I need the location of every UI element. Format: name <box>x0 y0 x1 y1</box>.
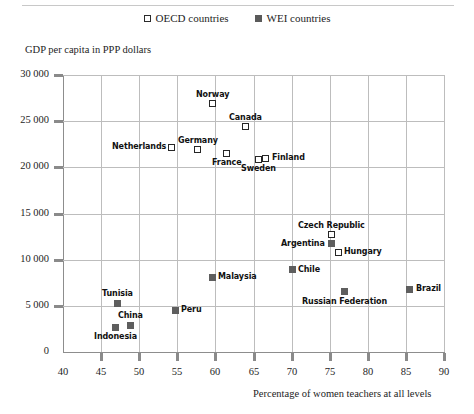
open-square-icon <box>144 15 151 22</box>
filled-square-icon <box>255 15 262 22</box>
y-axis-tick <box>54 120 63 123</box>
data-point-label: Peru <box>181 305 202 314</box>
data-point-label: Indonesia <box>94 332 137 341</box>
y-axis-tick-label: 10 000 <box>0 253 49 264</box>
data-point[interactable] <box>194 146 201 153</box>
y-axis-tick-label: 0 <box>0 345 49 356</box>
x-axis-tick-label: 45 <box>81 366 121 377</box>
header-divider <box>22 5 454 6</box>
x-axis-tick-label: 65 <box>234 366 274 377</box>
x-axis-title: Percentage of women teachers at all leve… <box>253 388 431 399</box>
gridline-vertical <box>406 75 407 352</box>
legend-item-wei: WEI countries <box>255 12 331 24</box>
x-axis-tick <box>443 353 446 361</box>
y-axis-tick-label: 15 000 <box>0 207 49 218</box>
data-point[interactable] <box>289 266 296 273</box>
y-axis-tick-label: 20 000 <box>0 160 49 171</box>
data-point-label: Netherlands <box>112 142 166 151</box>
data-point-label: Hungary <box>344 247 382 256</box>
x-axis-tick-label: 50 <box>119 366 159 377</box>
gridline-vertical <box>330 75 331 352</box>
x-axis-tick-label: 70 <box>272 366 312 377</box>
legend-label-wei: WEI countries <box>267 12 331 24</box>
x-axis-tick <box>100 353 103 361</box>
data-point[interactable] <box>168 144 175 151</box>
chart-legend: OECD countries WEI countries <box>0 12 474 24</box>
x-axis-tick <box>329 353 332 361</box>
x-axis-tick <box>253 353 256 361</box>
x-axis-tick <box>138 353 141 361</box>
data-point-label: Finland <box>272 153 305 162</box>
data-point-label: Canada <box>229 113 262 122</box>
data-point-label: Russian Federation <box>302 297 387 306</box>
data-point[interactable] <box>406 286 413 293</box>
gridline-vertical <box>444 75 445 352</box>
data-point[interactable] <box>127 322 134 329</box>
data-point[interactable] <box>209 100 216 107</box>
data-point-label: Sweden <box>241 164 276 173</box>
y-axis-tick <box>54 74 63 77</box>
x-axis-tick <box>176 353 179 361</box>
y-axis-tick-label: 5 000 <box>0 299 49 310</box>
x-axis-tick-label: 85 <box>386 366 426 377</box>
data-point-label: Brazil <box>416 284 441 293</box>
y-axis-tick-label: 25 000 <box>0 114 49 125</box>
data-point-label: France <box>212 158 242 167</box>
x-axis-tick-label: 60 <box>195 366 235 377</box>
gridline-vertical <box>368 75 369 352</box>
x-axis-tick-label: 55 <box>157 366 197 377</box>
data-point[interactable] <box>112 324 119 331</box>
scatter-chart: OECD countries WEI countries GDP per cap… <box>0 0 474 414</box>
x-axis-tick-label: 75 <box>310 366 350 377</box>
legend-item-oecd: OECD countries <box>144 12 229 24</box>
x-axis-tick-label: 80 <box>348 366 388 377</box>
y-axis-tick-label: 30 000 <box>0 68 49 79</box>
y-axis-tick <box>54 166 63 169</box>
data-point-label: Argentina <box>281 239 325 248</box>
x-axis-tick <box>367 353 370 361</box>
data-point[interactable] <box>114 300 121 307</box>
data-point[interactable] <box>262 155 269 162</box>
x-axis-tick <box>405 353 408 361</box>
gridline-vertical <box>292 75 293 352</box>
data-point[interactable] <box>341 288 348 295</box>
data-point-label: Malaysia <box>218 272 257 281</box>
data-point[interactable] <box>242 123 249 130</box>
y-axis-tick <box>54 259 63 262</box>
x-axis-tick-label: 90 <box>424 366 464 377</box>
data-point-label: Norway <box>196 90 229 99</box>
gridline-vertical <box>215 75 216 352</box>
x-axis-tick <box>214 353 217 361</box>
data-point[interactable] <box>328 240 335 247</box>
gridline-vertical <box>101 75 102 352</box>
data-point[interactable] <box>328 231 335 238</box>
y-axis-tick <box>54 305 63 308</box>
data-point-label: China <box>118 311 143 320</box>
data-point[interactable] <box>335 249 342 256</box>
data-point[interactable] <box>172 307 179 314</box>
data-point-label: Czech Republic <box>298 221 365 230</box>
y-axis-tick <box>54 213 63 216</box>
legend-label-oecd: OECD countries <box>156 12 229 24</box>
data-point[interactable] <box>209 274 216 281</box>
x-axis-tick <box>291 353 294 361</box>
data-point[interactable] <box>223 150 230 157</box>
data-point-label: Germany <box>178 136 218 145</box>
plot-area: NorwayCanadaNetherlandsGermanyFranceSwed… <box>63 75 444 352</box>
data-point-label: Chile <box>298 265 320 274</box>
y-axis-title: GDP per capita in PPP dollars <box>25 44 151 55</box>
x-axis-tick-label: 40 <box>43 366 83 377</box>
data-point-label: Tunisia <box>102 289 133 298</box>
